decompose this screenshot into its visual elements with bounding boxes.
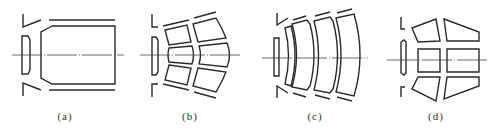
top-baffle [277, 13, 288, 25]
arc-cell-1 [285, 26, 295, 86]
cell-top-outer [444, 19, 479, 41]
cell-top-inner [165, 25, 191, 45]
arc-cell-4 [336, 14, 360, 96]
cell-top-outer [193, 18, 226, 42]
top-baffle [152, 14, 158, 27]
cell-bottom-outer [444, 77, 479, 99]
top-rail-2 [293, 16, 306, 20]
cell-bottom-outer [193, 68, 226, 92]
bottom-baffle [401, 87, 405, 97]
panel-c-label: (c) [295, 110, 335, 122]
top-baffle [23, 14, 41, 27]
cell-top-inner [412, 19, 440, 42]
top-baffle [401, 17, 405, 29]
bottom-rail-3 [315, 95, 330, 99]
top-rail-3 [315, 12, 330, 16]
panel-d [387, 17, 487, 101]
bottom-rail-4 [337, 97, 352, 101]
bottom-baffle [23, 83, 41, 96]
cell-mid-inner [418, 49, 440, 72]
top-rail-4 [337, 9, 352, 13]
panel-b-label: (b) [170, 110, 210, 122]
panel-d-label: (d) [416, 110, 456, 122]
front-plate [401, 40, 406, 75]
top-rail-2 [194, 12, 216, 18]
cell-bottom-inner [412, 77, 440, 101]
panel-c [262, 9, 368, 101]
cell-bottom-inner [165, 65, 191, 85]
panel-a-label: (a) [45, 110, 85, 122]
front-plate [274, 38, 279, 76]
cell-mid-outer [447, 49, 479, 72]
bottom-baffle [277, 86, 288, 98]
bottom-rail-2 [293, 93, 306, 97]
arc-cell-3 [314, 17, 338, 93]
panel-a [12, 14, 124, 96]
front-plate [152, 37, 158, 75]
panel-b [140, 12, 240, 98]
bottom-baffle [152, 84, 158, 97]
bottom-rail-2 [194, 92, 216, 98]
